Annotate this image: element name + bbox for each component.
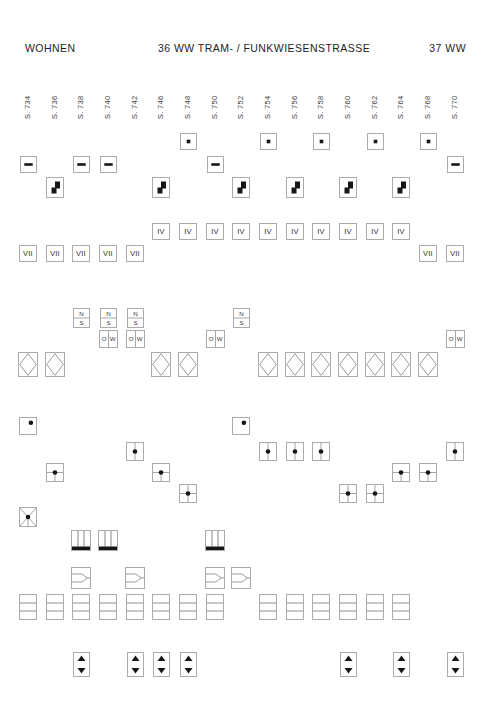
stair-row-box [339, 177, 357, 198]
corner-dot-icon [233, 418, 249, 434]
bands-row-box [206, 594, 224, 620]
up-down-arrows-icon [448, 653, 463, 676]
storey-label: IV [237, 227, 245, 236]
up-down-arrows-icon [154, 653, 169, 676]
svg-text:N: N [133, 310, 137, 317]
shaft-icon [72, 531, 90, 550]
storey-label: IV [264, 227, 272, 236]
bands-row-box [152, 594, 170, 620]
stair-row-box [286, 177, 304, 198]
shaft-icon [99, 531, 117, 550]
corner-dot-row-box [232, 417, 250, 435]
storey-label: VII [423, 249, 433, 258]
bands-row-box [99, 594, 117, 620]
lift-arrows-row-box [447, 652, 464, 677]
storeys-vii-row-box: VII [19, 245, 37, 262]
bands-row-box [179, 594, 197, 620]
up-down-arrows-icon [128, 653, 143, 676]
column-label: S. 736 [49, 75, 61, 119]
stair-icon [153, 178, 169, 197]
storeys-vii-row-box: VII [446, 245, 464, 262]
tee-dot-row-box [392, 463, 410, 482]
storey-label: IV [211, 227, 219, 236]
shaft-row-box [71, 530, 91, 551]
orientation-ow-row-box: OW [446, 330, 465, 348]
bands-row-box [286, 594, 304, 620]
axis-dot-row-box [446, 442, 464, 461]
column-label: S. 748 [182, 75, 194, 119]
diamond-icon [179, 353, 197, 376]
square-dot-icon [181, 134, 196, 149]
dash-row-box [100, 156, 117, 173]
star-dot-icon [20, 508, 36, 526]
column-label: S. 762 [369, 75, 381, 119]
stair-icon [47, 178, 63, 197]
storeys-iv-row-box: IV [312, 223, 330, 240]
dash-row-box [73, 156, 90, 173]
junction-icon [126, 568, 144, 588]
diamond-row-box [311, 352, 331, 377]
svg-text:W: W [216, 335, 222, 342]
orientation-ns-row-box: NS [233, 308, 250, 328]
svg-text:N: N [239, 310, 243, 317]
north-south-icon: NS [128, 309, 143, 327]
tee-dot-icon [47, 464, 63, 481]
axis-dot-icon [313, 443, 329, 460]
diamond-row-box [391, 352, 411, 377]
junction-row-box [205, 567, 225, 589]
storey-label: IV [371, 227, 379, 236]
axis-dot-row-box [286, 442, 304, 461]
diamond-row-box [151, 352, 171, 377]
junction-icon [232, 568, 250, 588]
bands-row-box [312, 594, 330, 620]
stair-row-box [232, 177, 250, 198]
minus-icon [101, 157, 116, 172]
junction-icon [72, 568, 90, 588]
square-dot-icon [421, 134, 436, 149]
east-west-icon: OW [100, 331, 117, 347]
diamond-icon [312, 353, 330, 376]
bands-row-box [366, 594, 384, 620]
junction-row-box [231, 567, 251, 589]
corner-dot-row-box [19, 417, 37, 435]
storeys-iv-row-box: IV [259, 223, 277, 240]
orientation-ow-row-box: OW [99, 330, 118, 348]
diamond-icon [339, 353, 357, 376]
column-label: S. 750 [209, 75, 221, 119]
diamond-row-box [365, 352, 385, 377]
minus-icon [208, 157, 223, 172]
page: WOHNEN 36 WW TRAM- / FUNKWIESENSTRASSE 3… [0, 0, 490, 707]
tee-dot-icon [420, 464, 436, 481]
bands-icon [393, 595, 409, 619]
bands-row-box [392, 594, 410, 620]
star-dot-row-box [19, 507, 37, 527]
cross-dot-icon [367, 485, 383, 502]
column-label: S. 740 [102, 75, 114, 119]
bands-icon [73, 595, 89, 619]
stair-row-box [152, 177, 170, 198]
tee-dot-icon [153, 464, 169, 481]
up-down-arrows-icon [181, 653, 196, 676]
bands-icon [340, 595, 356, 619]
minus-icon [448, 157, 463, 172]
bands-icon [47, 595, 63, 619]
axis-dot-icon [447, 443, 463, 460]
tee-dot-row-box [46, 463, 64, 482]
storey-label: VII [76, 249, 86, 258]
bands-icon [127, 595, 143, 619]
square-dot-row-box [367, 133, 384, 150]
lift-arrows-row-box [180, 652, 197, 677]
column-label: S. 760 [342, 75, 354, 119]
lift-arrows-row-box [340, 652, 357, 677]
square-dot-row-box [313, 133, 330, 150]
section-title: WOHNEN [25, 42, 76, 54]
stair-row-box [46, 177, 64, 198]
dash-row-box [447, 156, 464, 173]
column-label: S. 758 [315, 75, 327, 119]
column-label: S. 764 [395, 75, 407, 119]
junction-row-box [125, 567, 145, 589]
diamond-row-box [418, 352, 438, 377]
diamond-icon [46, 353, 64, 376]
up-down-arrows-icon [394, 653, 409, 676]
tee-dot-row-box [419, 463, 437, 482]
